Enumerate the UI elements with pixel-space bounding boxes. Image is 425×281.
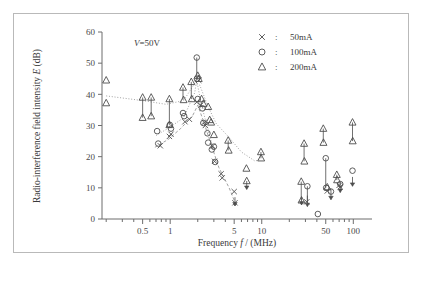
y-axis-title: Radio-interference field intensity E (dB… [32,49,43,203]
legend-label: 50mA [290,32,313,42]
limit-arrows-group [233,177,355,207]
y-tick-label: 20 [86,152,96,162]
legend-entry-100mA[interactable]: :100mA [259,47,318,57]
y-tick-label: 40 [86,90,96,100]
y-tick-label: 50 [86,58,96,68]
x-tick-label: 1 [168,226,173,236]
limit-arrow-head [338,189,342,192]
x-tick-label: 50 [321,226,331,236]
x-tick-label: 100 [347,226,361,236]
legend-separator: : [275,32,278,42]
y-tick-label: 60 [86,27,96,37]
legend-entry-200mA[interactable]: :200mA [258,62,317,72]
axes-group [102,32,372,219]
legend-separator: : [275,47,278,57]
data-point-50mA [220,175,225,180]
y-tick-label: 0 [91,214,96,224]
data-point-100mA [315,211,321,217]
data-point-200mA [225,147,232,154]
triangle-marker-icon [258,63,265,70]
legend-entry-50mA[interactable]: :50mA [259,32,313,42]
y-axis-ticks [98,32,102,219]
y-axis-tick-labels: 0102030405060 [86,27,96,224]
x-axis-tick-labels: 0.5151050100 [137,226,361,236]
radio-interference-scatter-chart: 0102030405060 0.5151050100 Frequency f /… [14,14,408,252]
data-point-100mA [154,128,160,134]
legend-label: 100mA [290,47,318,57]
data-point-200mA [103,99,110,106]
series-50mA [158,78,343,206]
data-point-200mA [103,77,110,84]
figure-frame: 0102030405060 0.5151050100 Frequency f /… [13,13,409,253]
y-tick-label: 10 [86,183,96,193]
data-point-200mA [210,131,217,138]
data-point-100mA [205,140,211,146]
data-point-50mA [168,132,173,137]
data-point-50mA [232,189,237,194]
legend: :50mA:100mA:200mA [258,32,317,72]
data-point-200mA [243,165,250,172]
data-markers-group [103,55,356,217]
x-tick-label: 5 [232,226,237,236]
circle-marker-icon [259,49,265,55]
condition-annotation: V=50V [134,38,161,48]
limit-arrow-head [329,196,333,199]
x-axis-title: Frequency f / (MHz) [198,238,276,249]
50mA-trend [155,105,236,204]
200mA-trend [106,83,261,161]
x-marker-icon [259,34,265,40]
figure-page: 0102030405060 0.5151050100 Frequency f /… [0,0,425,281]
x-tick-label: 0.5 [137,226,149,236]
limit-arrow-head [350,183,354,186]
data-point-200mA [180,96,187,103]
legend-separator: : [275,62,278,72]
limit-arrow-head [245,186,249,189]
legend-label: 200mA [290,62,318,72]
x-tick-label: 10 [257,226,267,236]
trend-lines-group [106,80,261,204]
y-tick-label: 30 [86,121,96,131]
data-point-100mA [350,168,356,174]
